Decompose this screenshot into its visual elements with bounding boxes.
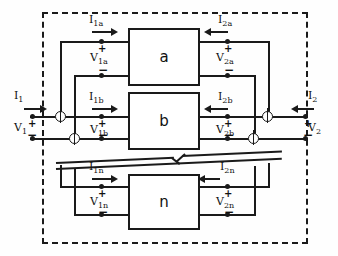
block-b: b bbox=[128, 92, 200, 150]
wire-a-in-top bbox=[60, 41, 130, 43]
arrow-i1n bbox=[92, 178, 112, 180]
polarity-minus-v1: − bbox=[27, 129, 37, 141]
polarity-minus-v1n: − bbox=[98, 206, 108, 218]
wire-b-out-top bbox=[198, 116, 270, 118]
polarity-minus-v2n: − bbox=[224, 206, 234, 218]
bus-a-out-bot-v bbox=[254, 75, 256, 139]
block-n-label: n bbox=[159, 193, 169, 211]
arrow-i2 bbox=[297, 108, 314, 110]
terminal-port2-top[interactable] bbox=[262, 111, 273, 122]
block-a-label: a bbox=[159, 48, 168, 66]
polarity-minus-v2a: − bbox=[224, 64, 234, 76]
label-i1a: I1a bbox=[89, 14, 103, 28]
terminal-port1-bot[interactable] bbox=[69, 133, 80, 144]
label-i2b: I2b bbox=[218, 91, 233, 105]
bus-n-in-bot-v bbox=[74, 168, 76, 216]
arrow-i2b bbox=[210, 108, 228, 110]
wire-n-in-top bbox=[60, 186, 130, 188]
bus-a-in-top-v bbox=[60, 41, 62, 117]
polarity-plus-v2a: + bbox=[224, 44, 232, 54]
arrow-i2a bbox=[210, 31, 228, 33]
label-v1: V1 bbox=[14, 122, 27, 136]
polarity-minus-v2b: − bbox=[224, 129, 234, 141]
block-n: n bbox=[128, 174, 200, 230]
circuit-diagram: a I1a I2a V1a V2a + − + − b I1b I2 bbox=[0, 0, 338, 256]
bus-a-out-top-v bbox=[268, 41, 270, 117]
polarity-plus-v1n: + bbox=[98, 189, 106, 199]
polarity-minus-v1a: − bbox=[98, 64, 108, 76]
polarity-minus-v1b: − bbox=[98, 129, 108, 141]
label-i2a: I2a bbox=[218, 14, 232, 28]
label-i2: I2 bbox=[308, 90, 317, 104]
arrow-i1a bbox=[92, 31, 112, 33]
arrow-i2n bbox=[204, 178, 220, 180]
polarity-minus-v2: − bbox=[303, 129, 313, 141]
polarity-plus-v1a: + bbox=[98, 44, 106, 54]
bus-n-out-bot-v bbox=[254, 166, 256, 216]
label-i1b: I1b bbox=[89, 91, 104, 105]
label-i1n: I1n bbox=[89, 161, 104, 175]
label-i1: I1 bbox=[14, 90, 23, 104]
label-i2n: I2n bbox=[220, 161, 235, 175]
arrow-i1 bbox=[24, 108, 41, 110]
wire-a-out-top bbox=[198, 41, 270, 43]
arrow-i1b bbox=[92, 108, 112, 110]
terminal-port1-top[interactable] bbox=[55, 111, 66, 122]
block-b-label: b bbox=[159, 112, 169, 130]
polarity-plus-v2n: + bbox=[224, 189, 232, 199]
wire-n-out-top bbox=[198, 186, 270, 188]
terminal-port2-bot[interactable] bbox=[248, 133, 259, 144]
block-a: a bbox=[128, 28, 200, 86]
